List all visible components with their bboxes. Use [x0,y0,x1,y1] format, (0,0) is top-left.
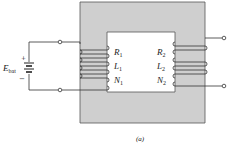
terminal-top-right [222,36,226,40]
battery-icon [24,63,34,72]
label-R2: R2 [156,47,166,58]
figure-caption: (a) [136,135,145,143]
terminal-top-left [58,40,62,44]
terminal-bottom-right [222,84,226,88]
transformer-core [80,2,205,123]
label-L2: L2 [156,61,165,72]
battery-plus: + [21,54,26,61]
battery-label: Ebat [2,63,16,74]
label-R1: R1 [113,47,123,58]
label-L1: L1 [113,61,122,72]
terminal-bottom-left [58,88,62,92]
label-N1: N1 [113,75,123,86]
label-N2: N2 [156,75,166,86]
transformer-diagram: + − Ebat R1 L1 N1 R2 L2 N2 (a) [0,0,228,152]
battery-minus: − [19,75,25,83]
